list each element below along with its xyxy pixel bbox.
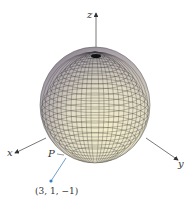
p-label-leader <box>57 154 64 155</box>
point-p-label: P <box>48 149 55 159</box>
x-axis <box>15 138 46 153</box>
point-connector <box>51 158 66 181</box>
sphere <box>40 47 150 164</box>
z-axis-label: z <box>87 10 92 20</box>
sphere-svg <box>0 0 190 204</box>
x-axis-label: x <box>7 148 13 158</box>
y-axis <box>146 138 178 160</box>
north-pole <box>91 54 101 58</box>
point-marker <box>49 179 52 182</box>
point-coordinates: (3, 1, −1) <box>35 187 78 196</box>
y-axis-label: y <box>178 159 184 169</box>
